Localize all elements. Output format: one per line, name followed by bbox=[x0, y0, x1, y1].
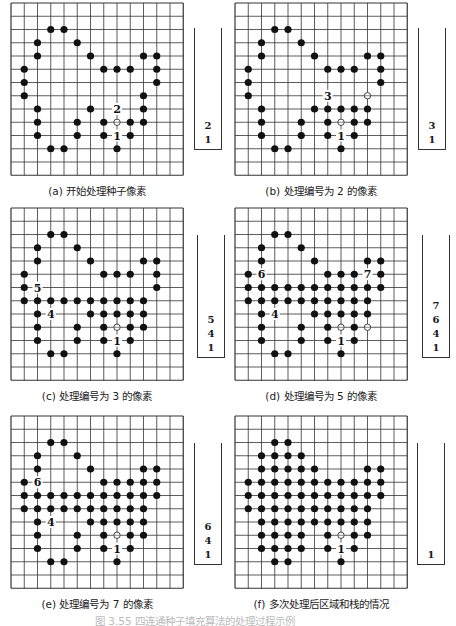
filled-pixel bbox=[258, 465, 265, 472]
filled-pixel bbox=[284, 479, 291, 486]
panel-caption-f: (f) 多次处理后区域和栈的情况 bbox=[251, 596, 391, 611]
filled-pixel bbox=[324, 532, 331, 539]
filled-pixel bbox=[337, 492, 344, 499]
filled-pixel bbox=[377, 492, 384, 499]
filled-pixel bbox=[245, 505, 252, 512]
filled-pixel bbox=[258, 545, 265, 552]
filled-pixel bbox=[298, 532, 305, 539]
filled-pixel bbox=[271, 545, 278, 552]
filled-pixel bbox=[271, 479, 278, 486]
filled-pixel bbox=[364, 492, 371, 499]
filled-pixel bbox=[284, 492, 291, 499]
filled-pixel bbox=[351, 505, 358, 512]
filled-pixel bbox=[337, 505, 344, 512]
filled-pixel bbox=[271, 558, 278, 565]
filled-pixel bbox=[351, 479, 358, 486]
filled-pixel bbox=[337, 518, 344, 525]
filled-pixel bbox=[311, 465, 318, 472]
figure-caption-partial: 图 3.55 四连通种子填充算法的处理过程示例 bbox=[95, 613, 295, 626]
filled-pixel bbox=[258, 518, 265, 525]
filled-pixel bbox=[271, 439, 278, 446]
filled-pixel bbox=[337, 479, 344, 486]
pixel-number-label: 1 bbox=[337, 543, 345, 556]
filled-pixel bbox=[298, 492, 305, 499]
filled-pixel bbox=[245, 492, 252, 499]
stack-item: 1 bbox=[428, 548, 435, 562]
filled-pixel bbox=[298, 518, 305, 525]
filled-pixel bbox=[324, 479, 331, 486]
filled-pixel bbox=[311, 505, 318, 512]
filled-pixel bbox=[271, 492, 278, 499]
filled-pixel bbox=[284, 439, 291, 446]
filled-pixel bbox=[311, 518, 318, 525]
filled-pixel bbox=[337, 558, 344, 565]
filled-pixel bbox=[364, 465, 371, 472]
stack-f: 1 bbox=[417, 443, 445, 565]
filled-pixel bbox=[271, 452, 278, 459]
filled-pixel bbox=[284, 452, 291, 459]
filled-pixel bbox=[324, 545, 331, 552]
filled-pixel bbox=[284, 545, 291, 552]
filled-pixel bbox=[311, 492, 318, 499]
filled-pixel bbox=[245, 479, 252, 486]
grid-panel-f: 1 bbox=[0, 0, 456, 626]
filled-pixel bbox=[271, 532, 278, 539]
filled-pixel bbox=[271, 505, 278, 512]
filled-pixel bbox=[271, 518, 278, 525]
filled-pixel bbox=[271, 465, 278, 472]
filled-pixel bbox=[298, 505, 305, 512]
filled-pixel bbox=[298, 465, 305, 472]
filled-pixel bbox=[364, 505, 371, 512]
filled-pixel bbox=[311, 479, 318, 486]
filled-pixel bbox=[324, 518, 331, 525]
filled-pixel bbox=[258, 452, 265, 459]
filled-pixel bbox=[258, 479, 265, 486]
filled-pixel bbox=[324, 505, 331, 512]
filled-pixel bbox=[324, 492, 331, 499]
filled-pixel bbox=[298, 479, 305, 486]
filled-pixel bbox=[284, 465, 291, 472]
filled-pixel bbox=[284, 505, 291, 512]
filled-pixel bbox=[351, 518, 358, 525]
filled-pixel bbox=[284, 518, 291, 525]
filled-pixel bbox=[377, 465, 384, 472]
filled-pixel bbox=[284, 532, 291, 539]
filled-pixel bbox=[258, 492, 265, 499]
filled-pixel bbox=[351, 492, 358, 499]
filled-pixel bbox=[298, 545, 305, 552]
filled-pixel bbox=[258, 532, 265, 539]
filled-pixel bbox=[377, 479, 384, 486]
filled-pixel bbox=[284, 558, 291, 565]
filled-pixel bbox=[298, 452, 305, 459]
filled-pixel bbox=[364, 518, 371, 525]
filled-pixel bbox=[351, 532, 358, 539]
filled-pixel bbox=[258, 505, 265, 512]
filled-pixel bbox=[364, 479, 371, 486]
filled-pixel bbox=[364, 532, 371, 539]
filled-pixel bbox=[351, 545, 358, 552]
